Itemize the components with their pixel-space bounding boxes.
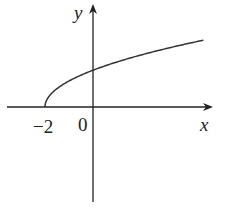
- y-axis-label: y: [72, 2, 83, 23]
- graph-canvas: y x −2 0: [0, 0, 229, 216]
- tick-label-neg2: −2: [33, 116, 53, 137]
- sqrt-curve: [45, 40, 203, 107]
- x-axis-label: x: [199, 114, 209, 135]
- origin-label: 0: [78, 114, 88, 135]
